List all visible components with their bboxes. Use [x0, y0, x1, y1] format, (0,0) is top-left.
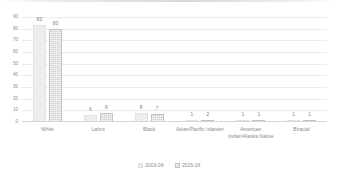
- y-axis-tick-50: 50: [13, 61, 18, 66]
- bar-group: 8380: [22, 17, 73, 122]
- x-axis-category-label: Asian/Pacific Islander: [175, 126, 226, 133]
- bar-group: 11: [276, 17, 327, 122]
- bar-pair: 11: [276, 17, 327, 122]
- bar-value-label: 1: [292, 113, 295, 118]
- bar-value-label: 2: [207, 113, 210, 118]
- chart-legend: 2003-042015-16: [0, 163, 338, 168]
- bar-pair: 87: [124, 17, 175, 122]
- bar-value-label: 80: [53, 22, 58, 27]
- bar-group: 68: [73, 17, 124, 122]
- bar-value-label: 83: [37, 18, 42, 23]
- bar-value-label: 1: [257, 113, 260, 118]
- plot-area: 83806887121111: [22, 17, 327, 122]
- bar-groups: 83806887121111: [22, 17, 327, 122]
- bar-value-label: 7: [156, 107, 159, 112]
- bar-value-label: 1: [241, 113, 244, 118]
- bar-value-label: 1: [191, 113, 194, 118]
- x-axis-category-label: White: [22, 126, 73, 133]
- y-axis-tick-80: 80: [13, 26, 18, 31]
- legend-item[interactable]: 2003-04: [138, 163, 164, 168]
- x-axis-category-label: Biracial: [276, 126, 327, 133]
- bar[interactable]: 80: [49, 29, 62, 122]
- x-axis-category-label: American Indian/Alaska Native: [225, 126, 276, 140]
- y-axis-tick-30: 30: [13, 85, 18, 90]
- bar-pair: 68: [73, 17, 124, 122]
- bar-group: 11: [225, 17, 276, 122]
- bar-value-label: 8: [105, 106, 108, 111]
- x-axis-category-label: Latinx: [73, 126, 124, 133]
- bar-group: 12: [175, 17, 226, 122]
- x-axis-line: [22, 121, 327, 122]
- legend-item[interactable]: 2015-16: [175, 163, 201, 168]
- bar-pair: 8380: [22, 17, 73, 122]
- bar-group: 87: [124, 17, 175, 122]
- x-axis-category-label: Black: [124, 126, 175, 133]
- y-axis-tick-70: 70: [13, 38, 18, 43]
- bar[interactable]: 83: [33, 25, 46, 122]
- legend-label: 2003-04: [145, 163, 163, 168]
- legend-swatch-icon: [138, 163, 143, 168]
- bar-value-label: 8: [140, 106, 143, 111]
- y-axis-tick-10: 10: [13, 108, 18, 113]
- bar-pair: 12: [175, 17, 226, 122]
- y-axis-tick-labels: 9080706050403020100: [0, 17, 20, 122]
- legend-swatch-icon: [175, 163, 180, 168]
- page-top-edge: [0, 0, 338, 2]
- y-axis-tick-60: 60: [13, 50, 18, 55]
- bar-value-label: 1: [308, 113, 311, 118]
- bar-value-label: 6: [89, 108, 92, 113]
- legend-label: 2015-16: [182, 163, 200, 168]
- y-axis-tick-40: 40: [13, 73, 18, 78]
- y-axis-tick-0: 0: [15, 120, 18, 125]
- bar-chart: 9080706050403020100 83806887121111 White…: [0, 0, 338, 173]
- x-axis-category-labels: WhiteLatinxBlackAsian/Pacific IslanderAm…: [22, 126, 327, 160]
- y-axis-tick-90: 90: [13, 15, 18, 20]
- y-axis-tick-20: 20: [13, 96, 18, 101]
- bar-pair: 11: [225, 17, 276, 122]
